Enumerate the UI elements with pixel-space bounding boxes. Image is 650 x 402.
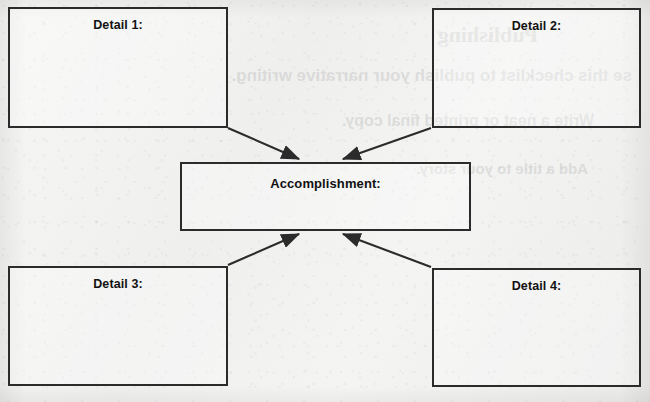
detail-box-4[interactable]: Detail 4: (432, 268, 641, 387)
accomplishment-box-label: Accomplishment: (182, 176, 469, 191)
detail-box-2[interactable]: Detail 2: (432, 8, 641, 128)
detail-box-1[interactable]: Detail 1: (8, 7, 228, 128)
worksheet-page: Publishing se this checklist to publish … (0, 0, 650, 402)
arrow-detail-3-to-accomplishment (228, 234, 299, 265)
detail-box-1-label: Detail 1: (10, 18, 226, 32)
arrow-detail-4-to-accomplishment (343, 234, 431, 267)
detail-box-3-label: Detail 3: (10, 277, 226, 291)
arrow-detail-1-to-accomplishment (228, 128, 299, 159)
detail-box-2-label: Detail 2: (434, 19, 639, 33)
accomplishment-box[interactable]: Accomplishment: (180, 162, 471, 231)
arrow-detail-2-to-accomplishment (343, 128, 431, 159)
detail-box-4-label: Detail 4: (434, 279, 639, 293)
detail-box-3[interactable]: Detail 3: (8, 266, 228, 386)
